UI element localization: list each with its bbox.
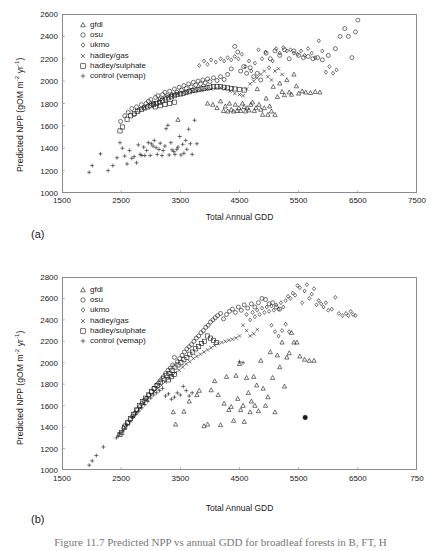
legend-item-label: ukmo: [89, 305, 110, 315]
x-tick-label: 2500: [112, 474, 130, 483]
y-tick-label: 1400: [40, 144, 58, 153]
legend-plus-icon: [77, 71, 89, 81]
legend-item-label: gfdl: [89, 20, 103, 30]
legend-item-label: ukmo: [89, 40, 110, 50]
panel-b-y-ticks: 1000120014001600180020002200240026002800: [28, 277, 58, 470]
legend-item-label: osu: [89, 30, 103, 40]
panel-b-x-ticks: 150025003500450055006500750: [62, 474, 417, 488]
y-tick-label: 1800: [40, 380, 58, 389]
x-tick-label: 3500: [171, 474, 189, 483]
panel-b-legend: gfdl osu ukmo hadley/gas hadley/sulphate…: [77, 285, 146, 346]
x-tick-label: 7500: [408, 196, 426, 205]
x-tick-label: 2500: [112, 196, 130, 205]
y-tick-label: 2200: [40, 337, 58, 346]
panel-a-x-ticks: 1500250035004500550065007500: [62, 196, 417, 210]
legend-circle-open-icon: [77, 30, 89, 40]
x-tick-label: 5500: [290, 474, 308, 483]
x-tick-label: 4500: [231, 474, 249, 483]
y-tick-label: 1600: [40, 121, 58, 130]
legend-plus-icon: [77, 336, 89, 346]
chart-panel-a: Predicted NPP (gOM m-2 yr-1) 10001200140…: [0, 0, 441, 250]
x-tick-label: 1500: [53, 474, 71, 483]
x-tick-label: 6500: [349, 196, 367, 205]
y-tick-label: 2000: [40, 358, 58, 367]
legend-item-label: gfdl: [89, 285, 103, 295]
y-tick-label: 2800: [40, 273, 58, 282]
legend-item: hadley/gas: [77, 316, 146, 326]
panel-a-legend: gfdl osu ukmo hadley/gas hadley/sulphate…: [77, 20, 146, 81]
panel-a-x-axis-label: Total Annual GDD: [62, 212, 417, 222]
legend-item-label: hadley/gas: [89, 51, 129, 61]
legend-item-label: control (vemap): [89, 336, 146, 346]
legend-triangle-up-open-icon: [77, 285, 89, 295]
figure-caption: Figure 11.7 Predicted NPP vs annual GDD …: [0, 536, 441, 551]
y-tick-label: 1800: [40, 99, 58, 108]
legend-circle-open-icon: [77, 295, 89, 305]
legend-cross-x-icon: [77, 51, 89, 61]
legend-item: gfdl: [77, 285, 146, 295]
x-tick-label: 3500: [171, 196, 189, 205]
panel-a-y-axis-label: Predicted NPP (gOM m-2 yr-1): [14, 58, 25, 172]
legend-square-open-icon: [77, 326, 89, 336]
y-tick-label: 1200: [40, 166, 58, 175]
legend-item: osu: [77, 30, 146, 40]
y-tick-label: 2000: [40, 77, 58, 86]
legend-item: ukmo: [77, 40, 146, 50]
y-tick-label: 2600: [40, 10, 58, 19]
y-tick-label: 1200: [40, 444, 58, 453]
legend-item: control (vemap): [77, 336, 146, 346]
legend-item: hadley/sulphate: [77, 61, 146, 71]
x-tick-label: 4500: [231, 196, 249, 205]
y-tick-label: 2400: [40, 32, 58, 41]
legend-item: control (vemap): [77, 71, 146, 81]
y-tick-label: 2200: [40, 54, 58, 63]
y-tick-label: 2600: [40, 294, 58, 303]
legend-item-label: hadley/gas: [89, 316, 129, 326]
legend-diamond-open-icon: [77, 305, 89, 315]
panel-a-label: (a): [31, 228, 44, 240]
panel-a-y-ticks: 100012001400160018002000220024002600: [28, 14, 58, 193]
panel-b-label: (b): [31, 513, 44, 525]
x-tick-label: 1500: [53, 196, 71, 205]
legend-item: ukmo: [77, 305, 146, 315]
panel-b-x-axis-label: Total Annual GDD: [62, 503, 417, 513]
legend-item-label: control (vemap): [89, 71, 146, 81]
legend-item-label: hadley/sulphate: [89, 61, 146, 71]
legend-item: osu: [77, 295, 146, 305]
legend-triangle-up-open-icon: [77, 20, 89, 30]
x-tick-label: 750: [410, 474, 423, 483]
panel-b-y-axis-label: Predicted NPP (gOM m-2 yr-1): [14, 331, 25, 445]
chart-panel-b: Predicted NPP (gOM m-2 yr-1) 10001200140…: [0, 255, 441, 530]
legend-diamond-open-icon: [77, 40, 89, 50]
legend-item-label: hadley/sulphate: [89, 326, 146, 336]
x-tick-label: 5500: [290, 196, 308, 205]
y-tick-label: 1400: [40, 423, 58, 432]
legend-cross-x-icon: [77, 316, 89, 326]
legend-square-open-icon: [77, 61, 89, 71]
legend-item: hadley/gas: [77, 51, 146, 61]
x-tick-label: 6500: [349, 474, 367, 483]
legend-item: gfdl: [77, 20, 146, 30]
legend-item-label: osu: [89, 295, 103, 305]
legend-item: hadley/sulphate: [77, 326, 146, 336]
y-tick-label: 2400: [40, 315, 58, 324]
y-tick-label: 1600: [40, 401, 58, 410]
